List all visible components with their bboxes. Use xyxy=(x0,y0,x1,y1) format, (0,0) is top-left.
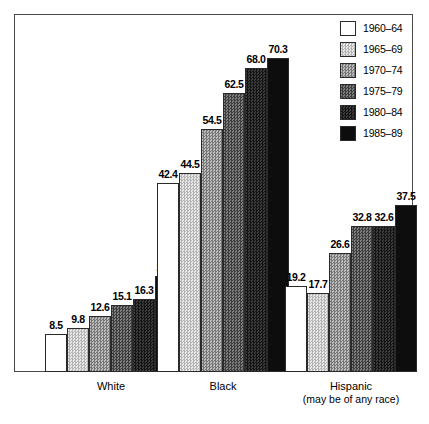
bar-hispanic-1975-79 xyxy=(351,226,373,372)
bar-hispanic-1965-69 xyxy=(307,293,329,372)
category-sublabel-text: (may be of any race) xyxy=(240,393,429,405)
bar-black-1970-74 xyxy=(201,129,223,372)
legend-item-1960-64: 1960–64 xyxy=(340,18,406,38)
bar-hispanic-1970-74 xyxy=(329,253,351,372)
legend-item-label: 1980–84 xyxy=(363,106,402,118)
bar-hispanic-1960-64 xyxy=(285,286,307,372)
legend-item-label: 1960–64 xyxy=(363,22,402,34)
legend-item-label: 1985–89 xyxy=(363,127,402,139)
category-label-hispanic: Hispanic(may be of any race) xyxy=(240,380,429,405)
bar-black-1960-64 xyxy=(157,183,179,372)
bar-black-1975-79 xyxy=(223,93,245,372)
legend-item-label: 1975–79 xyxy=(363,85,402,97)
legend-swatch-icon xyxy=(340,63,356,78)
bar-hispanic-1985-89 xyxy=(395,205,417,372)
bar-white-1980-84 xyxy=(133,299,155,372)
legend-item-1980-84: 1980–84 xyxy=(340,102,406,122)
bar-value-label: 37.5 xyxy=(391,190,421,202)
bar-white-1960-64 xyxy=(45,334,67,372)
legend-swatch-icon xyxy=(340,21,356,36)
bar-black-1980-84 xyxy=(245,68,267,372)
legend-item-label: 1965–69 xyxy=(363,43,402,55)
chart-legend: 1960–641965–691970–741975–791980–841985–… xyxy=(340,18,406,144)
legend-swatch-icon xyxy=(340,105,356,120)
legend-item-1965-69: 1965–69 xyxy=(340,39,406,59)
legend-item-1970-74: 1970–74 xyxy=(340,60,406,80)
category-label-text: Black xyxy=(210,380,237,392)
legend-item-1985-89: 1985–89 xyxy=(340,123,406,143)
bar-group-black: 42.444.554.562.568.070.3 xyxy=(157,15,289,372)
category-label-text: Hispanic xyxy=(330,380,372,392)
bar-white-1970-74 xyxy=(89,316,111,372)
bar-white-1975-79 xyxy=(111,305,133,372)
legend-item-1975-79: 1975–79 xyxy=(340,81,406,101)
bar-hispanic-1980-84 xyxy=(373,226,395,372)
bar-black-1965-69 xyxy=(179,173,201,372)
legend-item-label: 1970–74 xyxy=(363,64,402,76)
bar-white-1965-69 xyxy=(67,328,89,372)
legend-swatch-icon xyxy=(340,42,356,57)
legend-swatch-icon xyxy=(340,84,356,99)
legend-swatch-icon xyxy=(340,126,356,141)
